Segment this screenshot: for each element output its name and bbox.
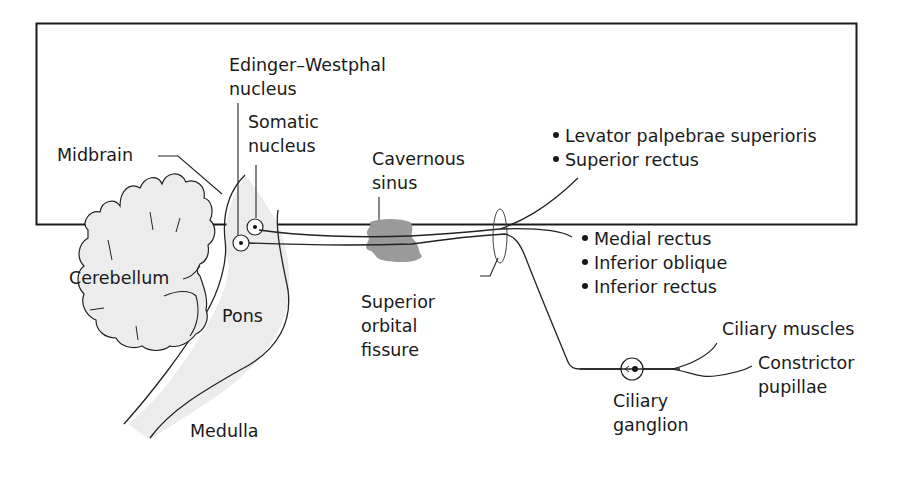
target-levator-palpebrae: Levator palpebrae superioris xyxy=(553,124,817,148)
superior-division-targets: Levator palpebrae superioris Superior re… xyxy=(553,124,817,172)
label-superior-orbital-fissure: Superior orbital fissure xyxy=(361,290,435,362)
label-cerebellum: Cerebellum xyxy=(69,266,169,290)
target-label: Inferior oblique xyxy=(594,253,727,273)
target-label: Superior rectus xyxy=(565,150,699,170)
target-label: Medial rectus xyxy=(594,229,711,249)
superior-orbital-fissure-ellipse xyxy=(493,209,507,263)
target-inferior-rectus: Inferior rectus xyxy=(582,275,727,299)
bullet-icon xyxy=(582,235,588,241)
bullet-icon xyxy=(553,156,559,162)
label-edinger-westphal: Edinger–Westphal nucleus xyxy=(229,53,386,101)
edinger-westphal-dot xyxy=(239,241,243,245)
target-superior-rectus: Superior rectus xyxy=(553,148,817,172)
constrictor-pupillae-branch xyxy=(672,366,752,376)
label-somatic-nucleus: Somatic nucleus xyxy=(248,110,319,158)
superior-division-branch xyxy=(500,178,578,229)
bullet-icon xyxy=(553,132,559,138)
ciliary-muscles-branch xyxy=(672,343,717,369)
oculomotor-diagram xyxy=(0,0,909,497)
superior-orbital-fissure-leader xyxy=(480,258,498,276)
target-medial-rectus: Medial rectus xyxy=(582,227,727,251)
label-pons: Pons xyxy=(222,304,263,328)
label-medulla: Medulla xyxy=(190,419,259,443)
label-ciliary-muscles: Ciliary muscles xyxy=(722,317,854,341)
label-cavernous-sinus: Cavernous sinus xyxy=(372,147,465,195)
nerve-fiber-upper xyxy=(259,229,572,237)
target-label: Levator palpebrae superioris xyxy=(565,126,817,146)
target-inferior-oblique: Inferior oblique xyxy=(582,251,727,275)
label-ciliary-ganglion: Ciliary ganglion xyxy=(613,389,689,437)
somatic-nucleus-dot xyxy=(253,225,257,229)
bullet-icon xyxy=(582,283,588,289)
bullet-icon xyxy=(582,259,588,265)
inferior-division-targets: Medial rectus Inferior oblique Inferior … xyxy=(582,227,727,299)
label-midbrain: Midbrain xyxy=(57,143,133,167)
target-label: Inferior rectus xyxy=(594,277,717,297)
label-constrictor-pupillae: Constrictor pupillae xyxy=(758,351,854,399)
cerebellum-shape xyxy=(78,174,215,351)
